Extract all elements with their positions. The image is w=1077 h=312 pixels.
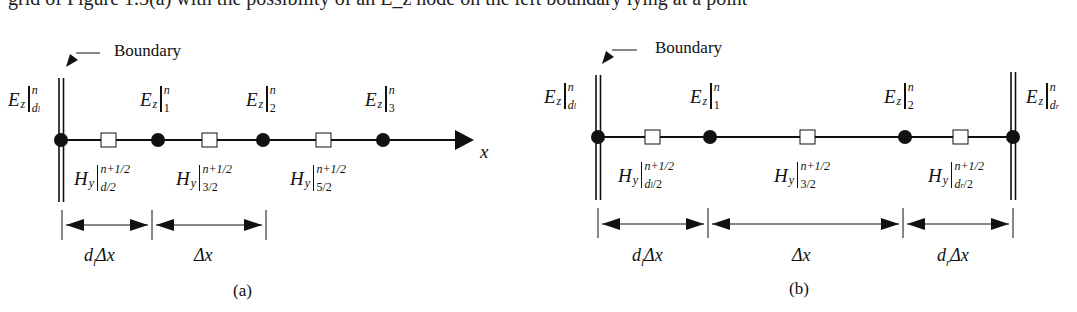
h-node	[202, 133, 217, 147]
dimension-label-dl-dx: dlΔx	[84, 245, 115, 268]
h-node	[800, 130, 815, 144]
axis-arrowhead-icon	[455, 130, 474, 150]
e-node	[151, 133, 165, 147]
panel-a	[54, 53, 474, 240]
e-node	[376, 133, 390, 147]
caption-b: (b)	[789, 279, 809, 299]
h-field-label-3-2: Hyn+1/23/2	[774, 160, 830, 190]
h-field-label-3-2: Hyn+1/23/2	[176, 163, 232, 193]
e-node	[256, 133, 270, 147]
caption-a: (a)	[233, 281, 252, 301]
e-node	[703, 130, 717, 144]
h-field-label-5-2: Hyn+1/25/2	[290, 163, 346, 193]
e-field-label-2: Ezn2	[246, 84, 276, 114]
boundary-pointer-icon	[602, 51, 614, 64]
h-node	[101, 133, 116, 147]
e-field-label-1: Ezn1	[690, 81, 720, 111]
boundary-label-a: Boundary	[114, 41, 181, 61]
dimension-label-dx: Δx	[194, 245, 213, 266]
e-node	[591, 130, 605, 144]
e-field-label-3: Ezn3	[365, 84, 395, 114]
boundary-pointer-icon	[66, 54, 78, 67]
dimension-label-dr-dx: drΔx	[937, 245, 969, 268]
e-field-label-2: Ezn2	[884, 81, 914, 111]
e-field-label-dr: Ezndr	[1026, 81, 1059, 111]
dimension-label-dx: Δx	[792, 245, 811, 266]
dimension-label-dl-dx: dlΔx	[632, 245, 663, 268]
h-field-label-dr-2: Hyn+1/2dr/2	[928, 160, 984, 190]
e-field-label-dl: Ezndl	[8, 84, 40, 114]
h-field-label-dl-2: Hyn+1/2dl/2	[618, 160, 674, 190]
e-node	[54, 133, 68, 147]
h-node	[953, 130, 968, 144]
boundary-label-b: Boundary	[655, 38, 722, 58]
e-node	[1006, 130, 1020, 144]
h-field-label-d2: Hyn+1/2d/2	[74, 163, 130, 193]
h-node	[645, 130, 660, 144]
panel-b	[591, 50, 1020, 238]
x-axis-label: x	[480, 142, 488, 161]
e-field-label-dl: Ezndl	[544, 81, 576, 111]
e-node	[898, 130, 912, 144]
h-node	[316, 133, 331, 147]
e-field-label-1: Ezn1	[140, 84, 170, 114]
